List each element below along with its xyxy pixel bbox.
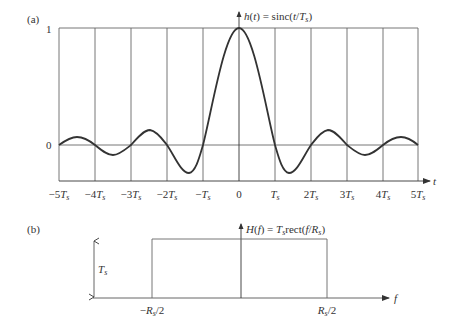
x-tick-neg-rs-half: −Rs/2 xyxy=(140,304,165,318)
f-axis-label: f xyxy=(394,292,399,304)
x-tick: 0 xyxy=(236,188,242,200)
figure: (a) 1 0 h(t) = sinc(t/Ts) t xyxy=(0,0,459,323)
panel-a-label: (a) xyxy=(27,13,40,26)
x-tick: 3Ts xyxy=(340,188,355,202)
panel-a: (a) 1 0 h(t) = sinc(t/Ts) t xyxy=(27,10,437,202)
y-tick-1: 1 xyxy=(46,23,52,35)
x-tick: 4Ts xyxy=(376,188,391,202)
x-tick-labels: −5Ts −4Ts −3Ts −2Ts −Ts 0 Ts 2Ts 3Ts 4Ts… xyxy=(49,188,426,202)
panel-b: (b) Ts H(f) = Tsrect(f/Rs) f −Rs/2 Rs/2 xyxy=(27,223,399,318)
t-axis-label: t xyxy=(433,175,437,187)
x-tick: −3Ts xyxy=(121,188,142,202)
x-tick: Ts xyxy=(270,188,279,202)
height-label: Ts xyxy=(98,263,107,277)
x-tick: −4Ts xyxy=(85,188,106,202)
sinc-curve xyxy=(59,28,418,173)
h-function-label: h(t) = sinc(t/Ts) xyxy=(244,10,312,24)
x-tick: −Ts xyxy=(195,188,210,202)
x-tick: −2Ts xyxy=(157,188,178,202)
panel-b-label: (b) xyxy=(27,223,40,236)
x-tick: 5Ts xyxy=(411,188,426,202)
x-tick-pos-rs-half: Rs/2 xyxy=(317,304,336,318)
rect-pulse xyxy=(152,239,327,298)
grid xyxy=(59,28,418,181)
H-function-label: H(f) = Tsrect(f/Rs) xyxy=(245,223,325,237)
y-tick-0: 0 xyxy=(46,139,52,151)
x-tick: 2Ts xyxy=(304,188,319,202)
x-tick: −5Ts xyxy=(49,188,70,202)
